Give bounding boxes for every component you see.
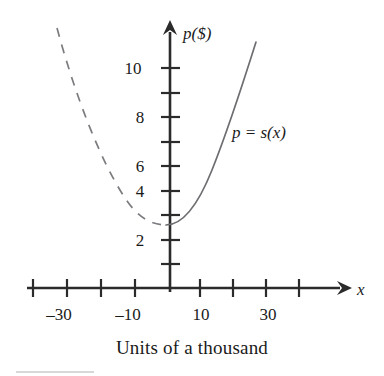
x-tick-label-minus10: –10 <box>114 305 141 324</box>
x-axis-label: x <box>356 280 365 299</box>
chart-figure: 10 8 6 4 2 –30 –10 10 30 p($) x p = s(x)… <box>0 0 384 376</box>
figure-caption: Units of a thousand <box>0 337 384 359</box>
y-tick-label-2: 2 <box>136 231 145 250</box>
x-tick-label-minus30: –30 <box>45 305 72 324</box>
y-axis-label: p($) <box>182 24 212 43</box>
supply-curve-dashed-extension <box>57 28 166 225</box>
x-tick-label-10: 10 <box>193 305 210 324</box>
y-tick-label-8: 8 <box>136 108 145 127</box>
y-tick-label-4: 4 <box>136 182 145 201</box>
y-tick-label-6: 6 <box>136 157 145 176</box>
x-tick-label-30: 30 <box>260 305 277 324</box>
chart-svg: 10 8 6 4 2 –30 –10 10 30 p($) x p = s(x) <box>0 0 384 376</box>
curve-equation-label: p = s(x) <box>231 123 286 142</box>
footer-divider <box>16 371 94 373</box>
y-tick-label-10: 10 <box>125 59 142 78</box>
